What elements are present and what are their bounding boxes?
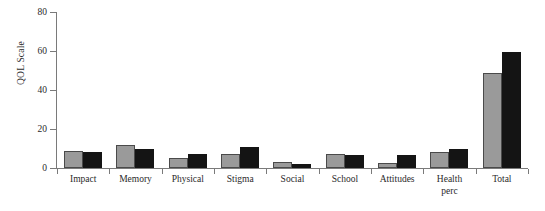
- bar: [64, 151, 83, 168]
- bar: [397, 155, 416, 168]
- bar: [116, 145, 135, 168]
- bar-group: [319, 12, 371, 168]
- y-tick-label: 20: [14, 129, 47, 130]
- bar-group: [371, 12, 423, 168]
- y-axis-title: QOL Scale: [16, 18, 26, 108]
- bar: [240, 147, 259, 168]
- bar-group: [423, 12, 475, 168]
- y-tick-mark: [50, 129, 57, 130]
- x-tick-label: Total: [468, 174, 536, 186]
- x-axis-line: [56, 168, 528, 169]
- y-tick-label: 80: [14, 12, 47, 13]
- bar: [273, 162, 292, 168]
- bar: [502, 52, 521, 168]
- bar-chart: QOL Scale 020406080 ImpactMemoryPhysical…: [0, 0, 545, 211]
- y-tick-mark: [50, 90, 57, 91]
- y-tick-label: 0: [14, 168, 47, 169]
- bar: [326, 154, 345, 168]
- bar: [345, 155, 364, 168]
- bar: [449, 149, 468, 169]
- bar-group: [162, 12, 214, 168]
- bar-group: [266, 12, 318, 168]
- plot-area: [57, 12, 528, 168]
- y-tick-label: 40: [14, 90, 47, 91]
- bar-group: [476, 12, 528, 168]
- y-tick-mark: [50, 168, 57, 169]
- bar: [83, 152, 102, 168]
- bar: [169, 158, 188, 168]
- bar: [292, 164, 311, 168]
- bar: [483, 73, 502, 168]
- y-tick-mark: [50, 51, 57, 52]
- bar-group: [109, 12, 161, 168]
- y-tick-label: 60: [14, 51, 47, 52]
- bar: [135, 149, 154, 169]
- bar: [378, 163, 397, 168]
- bar-group: [57, 12, 109, 168]
- y-tick-mark: [50, 12, 57, 13]
- bar: [188, 154, 207, 168]
- bar: [221, 154, 240, 168]
- bar: [430, 152, 449, 168]
- bar-group: [214, 12, 266, 168]
